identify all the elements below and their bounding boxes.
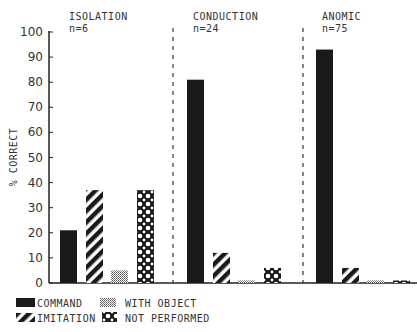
y-ticks: 0102030405060708090100: [20, 25, 53, 290]
bar-with-object: [238, 280, 255, 283]
bar-command: [316, 50, 333, 283]
legend-swatch-imitation: [16, 313, 35, 322]
legend-label-command: COMMAND: [37, 298, 83, 309]
bar-chart: 0102030405060708090100 % CORRECT ISOLATI…: [0, 0, 417, 332]
group-label: ANOMIC: [322, 11, 361, 22]
bar-not-performed: [264, 268, 281, 283]
y-tick-label: 70: [28, 100, 43, 114]
y-tick-label: 50: [28, 151, 43, 165]
legend: COMMAND WITH OBJECT IMITATION NOT PERFOR…: [16, 298, 210, 324]
bar-not-performed: [393, 280, 410, 283]
legend-label-imitation: IMITATION: [37, 313, 96, 324]
legend-label-with-object: WITH OBJECT: [125, 298, 197, 309]
bar-command: [187, 80, 204, 283]
legend-swatch-not-performed: [102, 312, 117, 322]
y-axis-label: % CORRECT: [8, 128, 19, 187]
y-tick-label: 90: [28, 50, 43, 64]
legend-swatch-command: [16, 298, 35, 307]
group-labels: ISOLATIONn=6CONDUCTIONn=24ANOMICn=75: [69, 11, 361, 34]
bar-not-performed: [137, 190, 154, 283]
y-tick-label: 80: [28, 75, 43, 89]
bar-imitation: [86, 190, 103, 283]
group-label: CONDUCTION: [193, 11, 258, 22]
y-tick-label: 40: [28, 176, 43, 190]
bar-imitation: [342, 268, 359, 283]
group-n-label: n=75: [322, 23, 348, 34]
group-n-label: n=6: [69, 23, 89, 34]
bar-imitation: [213, 253, 230, 283]
legend-label-not-performed: NOT PERFORMED: [125, 313, 210, 324]
y-tick-label: 60: [28, 125, 43, 139]
bar-with-object: [111, 270, 128, 283]
bar-with-object: [367, 280, 384, 283]
bar-command: [60, 230, 77, 283]
group-label: ISOLATION: [69, 11, 128, 22]
group-n-label: n=24: [193, 23, 219, 34]
y-tick-label: 100: [20, 25, 43, 39]
bars: [60, 50, 410, 283]
y-tick-label: 30: [28, 201, 43, 215]
legend-swatch-with-object: [100, 298, 116, 307]
y-tick-label: 0: [35, 276, 43, 290]
y-tick-label: 20: [28, 226, 43, 240]
y-tick-label: 10: [28, 251, 43, 265]
